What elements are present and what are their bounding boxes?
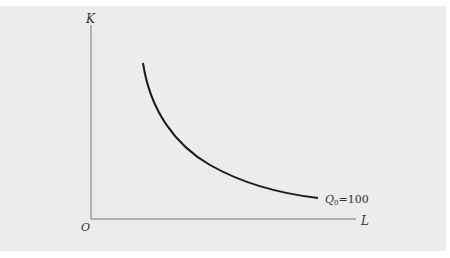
y-axis-label: K — [85, 12, 96, 26]
curve-label: Q0=100 — [325, 193, 369, 207]
curve-label-value: =100 — [339, 193, 369, 206]
curve-label-var: Q — [325, 193, 334, 206]
origin-label: O — [81, 221, 90, 234]
x-axis-label: L — [360, 214, 369, 228]
isoquant-diagram: K L O Q0=100 — [0, 0, 450, 258]
isoquant-curve — [143, 63, 318, 198]
